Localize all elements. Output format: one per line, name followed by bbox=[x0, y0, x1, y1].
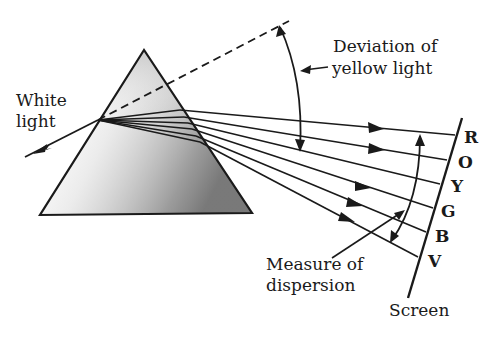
spectrum-letter-yellow: Y bbox=[450, 176, 464, 196]
white-light-label-line2: light bbox=[16, 111, 56, 131]
screen-label: Screen bbox=[389, 300, 449, 320]
spectrum-letter-blue: B bbox=[435, 226, 449, 246]
deviation-label-line1: Deviation of bbox=[333, 36, 439, 56]
spectrum-letter-green: G bbox=[441, 201, 456, 221]
spectrum-letter-orange: O bbox=[458, 152, 473, 172]
prism-dispersion-diagram: White light Deviation of yellow light Me… bbox=[0, 0, 487, 338]
dispersion-arc bbox=[332, 134, 425, 258]
spectrum-letter-red: R bbox=[464, 127, 479, 147]
dispersion-label-line2: dispersion bbox=[266, 275, 356, 295]
dispersion-label-line1: Measure of bbox=[266, 254, 365, 274]
ray-arrow-icons bbox=[338, 122, 385, 222]
deviation-label-line2: yellow light bbox=[331, 58, 432, 78]
undeviated-dashed-line bbox=[98, 21, 289, 120]
white-light-label-line1: White bbox=[16, 90, 67, 110]
spectrum-letter-violet: V bbox=[427, 251, 442, 271]
